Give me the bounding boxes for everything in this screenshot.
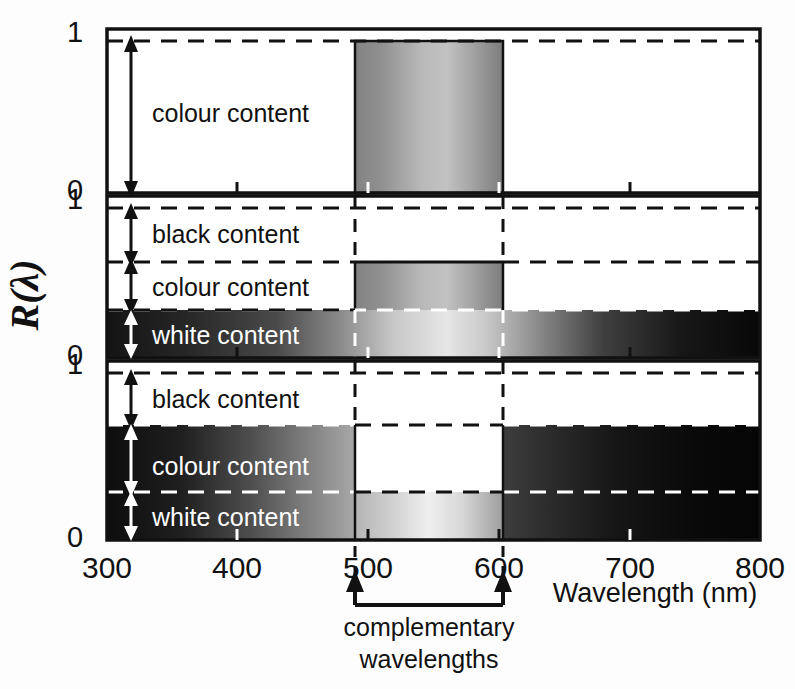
x-axis-title: Wavelength (nm)	[553, 578, 758, 608]
complementary-label-line-1: complementary	[344, 613, 515, 641]
xtick-600: 600	[474, 551, 524, 584]
panel-bottom-ytick-0: 0	[67, 521, 83, 553]
panel-bottom-black-content-label: black content	[152, 385, 299, 413]
complementary-label-line-2: wavelengths	[359, 645, 499, 673]
panel-bottom-colour-band-lower	[355, 492, 503, 540]
panel-bottom-right-dark-block	[503, 425, 760, 540]
panel-top-ytick-1: 1	[67, 16, 83, 48]
panel-bottom-colour-content-label: colour content	[152, 452, 309, 480]
panel-bottom-white-content-label: white content	[151, 503, 299, 531]
panel-top-colour-band	[355, 41, 503, 193]
reflectance-figure: colour content 1 0	[0, 0, 795, 689]
panel-middle-colour-band	[355, 262, 503, 310]
xtick-300: 300	[82, 551, 132, 584]
panel-bottom: black content colour content white conte…	[67, 348, 760, 553]
panel-middle-ytick-1: 1	[67, 183, 83, 215]
figure-container: colour content 1 0	[0, 0, 795, 689]
panel-middle-white-content-label: white content	[151, 321, 299, 349]
panel-top: colour content 1 0	[67, 16, 760, 206]
panel-middle-black-content-label: black content	[152, 220, 299, 248]
xtick-400: 400	[212, 551, 262, 584]
y-axis-title: R(λ)	[2, 259, 47, 331]
panel-middle-colour-content-label: colour content	[152, 273, 309, 301]
panel-middle: black content colour content white conte…	[67, 183, 760, 371]
panel-top-colour-content-label: colour content	[152, 99, 309, 127]
xtick-500: 500	[343, 551, 393, 584]
panel-bottom-ytick-1: 1	[67, 348, 83, 380]
